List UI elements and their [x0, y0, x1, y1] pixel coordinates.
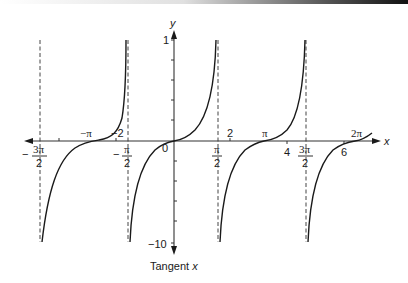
y-axis-label: y	[169, 17, 177, 29]
svg-text:2: 2	[36, 157, 42, 169]
x-axis-left-arrow-icon	[24, 138, 33, 144]
x-tick-label-neg-pi: −π	[80, 127, 92, 139]
svg-text:π: π	[214, 143, 220, 155]
x-tick-label-two-pi: 2π	[351, 127, 363, 139]
y-tick-label-bottom: −10	[148, 238, 167, 250]
y-axis-bottom-arrow-icon	[171, 246, 177, 255]
chart-caption: Tangent x	[150, 260, 198, 272]
svg-text:−: −	[113, 148, 119, 160]
svg-text:π: π	[124, 143, 130, 155]
origin-label: 0	[162, 142, 168, 154]
caption-word: Tangent	[150, 260, 192, 272]
y-axis-top-arrow-icon	[171, 30, 177, 39]
x-tick-label-3pi-over-2: 3π 2	[298, 143, 313, 169]
svg-text:2: 2	[124, 157, 130, 169]
x-tick-label-neg-pi-over-2: − π 2	[113, 143, 132, 169]
svg-text:−: −	[22, 148, 28, 160]
x-axis-label: x	[383, 135, 390, 147]
svg-text:3π: 3π	[299, 143, 311, 155]
x-tick-label-six: 6	[341, 146, 347, 158]
x-tick-label-pi-over-2: π 2	[212, 143, 222, 169]
svg-text:2: 2	[302, 157, 308, 169]
svg-text:2: 2	[214, 157, 220, 169]
y-tick-label-top: 1	[163, 34, 169, 46]
x-tick-label-four: 4	[284, 146, 290, 158]
tangent-branch-4	[308, 133, 372, 242]
x-tick-label-two: 2	[227, 127, 233, 139]
tangent-chart: y x 1 −10 0 −π −2 2 π 4 6 2π − 3π 2 − π …	[0, 0, 408, 283]
x-axis-right-arrow-icon	[372, 138, 381, 144]
x-tick-label-neg-two: −2	[111, 127, 124, 139]
caption-var: x	[191, 260, 198, 272]
svg-text:3π: 3π	[33, 143, 45, 155]
x-tick-label-pi: π	[262, 127, 268, 139]
x-tick-label-neg-3pi-over-2: − 3π 2	[22, 143, 47, 169]
